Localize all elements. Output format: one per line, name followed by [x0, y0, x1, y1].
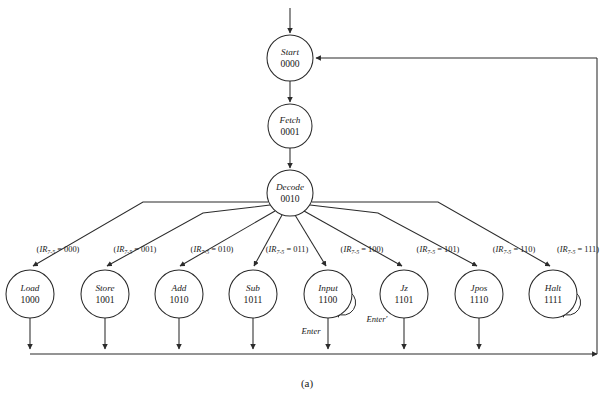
- state-node-jpos[interactable]: Jpos 1110: [455, 270, 503, 318]
- condition-label-load: (IR7-5 = 000): [37, 245, 80, 255]
- condition-label-store: (IR7-5 = 001): [114, 245, 157, 255]
- state-node-fetch[interactable]: Fetch 0001: [268, 104, 312, 148]
- state-node-jz[interactable]: Jz 1101: [380, 270, 428, 318]
- state-code-halt: 1111: [544, 294, 562, 305]
- condition-label-sub: (IR7-5 = 011): [266, 245, 309, 255]
- state-code-add: 1010: [169, 294, 188, 305]
- state-code-decode: 0010: [280, 193, 299, 204]
- signal-labels-group: Enter′ Enter: [300, 314, 387, 336]
- state-label-load: Load: [20, 283, 40, 293]
- condition-label-add: (IR7-5 = 010): [191, 245, 234, 255]
- state-label-input: Input: [317, 283, 338, 293]
- state-code-fetch: 0001: [280, 126, 299, 137]
- state-label-sub: Sub: [246, 283, 260, 293]
- state-label-jpos: Jpos: [471, 283, 488, 293]
- state-label-start: Start: [281, 47, 299, 57]
- state-node-sub[interactable]: Sub 1011: [229, 270, 277, 318]
- state-node-add[interactable]: Add 1010: [155, 270, 203, 318]
- state-code-input: 1100: [319, 294, 338, 305]
- state-code-start: 0000: [280, 58, 299, 69]
- condition-label-jpos: (IR7-5 = 110): [493, 245, 536, 255]
- signal-label-enter: Enter: [300, 326, 321, 336]
- edge-decode-to-store: [107, 205, 270, 266]
- state-node-start[interactable]: Start 0000: [267, 35, 313, 81]
- condition-label-input: (IR7-5 = 100): [341, 245, 384, 255]
- state-code-load: 1000: [20, 294, 39, 305]
- state-label-store: Store: [95, 283, 114, 293]
- signal-label-enter-prime: Enter′: [366, 314, 388, 324]
- state-label-jz: Jz: [400, 283, 408, 293]
- edge-decode-to-load: [33, 202, 268, 266]
- edge-decode-to-jz: [304, 211, 402, 266]
- state-node-input[interactable]: Input 1100: [304, 270, 352, 318]
- state-label-fetch: Fetch: [279, 115, 301, 125]
- state-code-sub: 1011: [244, 294, 263, 305]
- state-label-halt: Halt: [544, 283, 562, 293]
- condition-label-halt: (IR7-5 = 111): [557, 245, 599, 255]
- nodes-group: Start 0000 Fetch 0001 Decode 0010 Load 1…: [6, 35, 577, 318]
- state-code-store: 1001: [95, 294, 114, 305]
- state-node-load[interactable]: Load 1000: [6, 270, 54, 318]
- state-diagram: Start 0000 Fetch 0001 Decode 0010 Load 1…: [0, 0, 615, 397]
- edge-decode-to-sub: [254, 215, 282, 266]
- edge-decode-to-jpos: [310, 205, 477, 266]
- state-code-jpos: 1110: [470, 294, 489, 305]
- state-node-store[interactable]: Store 1001: [81, 270, 129, 318]
- state-node-halt[interactable]: Halt 1111: [529, 270, 577, 318]
- state-code-jz: 1101: [395, 294, 414, 305]
- condition-label-jz: (IR7-5 = 101): [417, 245, 460, 255]
- state-label-decode: Decode: [275, 182, 304, 192]
- edge-decode-to-add: [180, 211, 275, 266]
- edge-decode-to-input: [295, 215, 326, 266]
- edge-decode-to-halt: [312, 202, 550, 266]
- figure-caption: (a): [301, 377, 314, 390]
- state-node-decode[interactable]: Decode 0010: [267, 170, 313, 216]
- state-label-add: Add: [171, 283, 187, 293]
